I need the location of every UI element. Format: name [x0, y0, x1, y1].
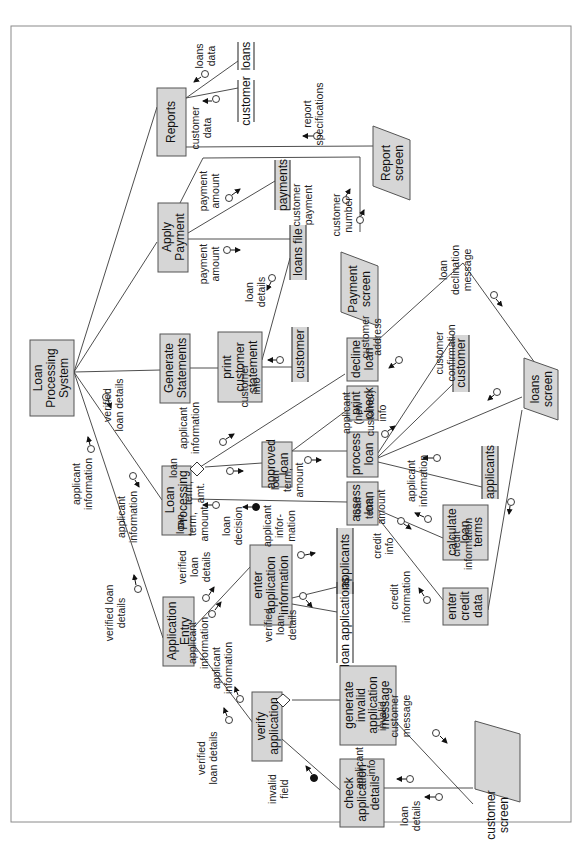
svg-text:loandecision: loandecision — [220, 507, 244, 546]
svg-text:applicantinfor-mation: applicantinfor-mation — [261, 505, 297, 547]
svg-text:applicant(newcustomer)info: applicant(newcustomer)info — [340, 390, 388, 437]
module-apply-payment[interactable]: ApplyPayment — [158, 203, 188, 272]
svg-text:loandetails: loandetails — [398, 801, 422, 831]
store-payments[interactable]: payments — [275, 159, 290, 211]
svg-text:applicantinformation: applicantinformation — [115, 491, 139, 543]
svg-text:applicants: applicants — [483, 445, 497, 499]
svg-text:customerscreen: customerscreen — [484, 790, 511, 839]
screen-report[interactable]: Reportscreen — [373, 126, 410, 200]
structure-chart: LoanProcessingSystem Reports ApplyPaymen… — [0, 0, 576, 858]
module-process-loan[interactable]: processloan — [347, 432, 378, 477]
store-customer-top[interactable]: customer — [238, 76, 254, 125]
svg-text:Paymentscreen: Paymentscreen — [346, 265, 373, 313]
svg-text:customer: customer — [239, 76, 253, 125]
svg-text:verifiedloandetails: verifiedloandetails — [176, 550, 212, 584]
svg-text:loan: loan — [167, 458, 179, 478]
svg-text:entercreditdata: entercreditdata — [445, 591, 485, 621]
svg-text:creditinfo: creditinfo — [371, 533, 395, 559]
svg-text:term,amt.: term,amt. — [182, 481, 206, 505]
screen-loans[interactable]: loansscreen — [524, 358, 558, 420]
store-customer-mid[interactable]: customer — [292, 327, 308, 382]
svg-text:invalidfield: invalidfield — [266, 774, 290, 804]
store-loans[interactable]: loans — [238, 42, 254, 71]
svg-text:payments: payments — [276, 159, 290, 211]
module-root[interactable]: LoanProcessingSystem — [30, 340, 74, 416]
svg-text:loans: loans — [239, 42, 253, 71]
svg-text:Reportscreen: Reportscreen — [379, 144, 406, 181]
svg-text:paymentamount: paymentamount — [197, 171, 221, 211]
store-loan-applications[interactable]: loan applications — [337, 577, 353, 666]
svg-text:verifiedloan details: verifiedloan details — [195, 731, 219, 784]
svg-text:applicantinformation: applicantinformation — [186, 617, 210, 669]
svg-text:customernumber: customernumber — [330, 193, 354, 237]
selection-diamond-loan-processing — [190, 462, 204, 476]
svg-text:GenerateStatements: GenerateStatements — [162, 338, 189, 399]
svg-text:applicantinformation: applicantinformation — [405, 455, 429, 507]
module-reports[interactable]: Reports — [157, 88, 186, 156]
svg-text:paymentamount: paymentamount — [197, 244, 221, 284]
svg-text:applicantinformation: applicantinformation — [70, 458, 94, 510]
svg-text:loandetails: loandetails — [243, 277, 267, 307]
module-verify-application[interactable]: verifyapplication — [252, 692, 282, 761]
couples — [88, 71, 515, 801]
svg-text:loansdata: loansdata — [193, 43, 217, 68]
svg-text:customeraddress: customeraddress — [359, 315, 383, 359]
svg-text:creditinformation: creditinformation — [388, 571, 412, 623]
module-enter-credit-data[interactable]: entercreditdata — [443, 588, 488, 625]
store-loans-file[interactable]: loans file — [290, 225, 306, 280]
svg-text:customer: customer — [293, 329, 307, 378]
page-frame — [11, 26, 571, 822]
svg-text:loans file: loans file — [291, 228, 305, 276]
svg-text:loansscreen: loansscreen — [528, 371, 555, 407]
connections — [74, 61, 535, 804]
svg-text:customerdata: customerdata — [189, 106, 213, 150]
svg-text:loandeclinationmessage: loandeclinationmessage — [437, 245, 473, 295]
svg-text:Reports: Reports — [164, 101, 178, 143]
svg-text:verified loandetails: verified loandetails — [103, 585, 127, 642]
svg-text:customerpayment: customerpayment — [290, 183, 314, 227]
module-generate-statements[interactable]: GenerateStatements — [160, 334, 190, 403]
svg-text:applicantinformation: applicantinformation — [177, 402, 201, 454]
svg-text:loan applications: loan applications — [338, 577, 352, 666]
store-applicants-right[interactable]: applicants — [482, 445, 498, 499]
svg-text:verifiedloan details: verifiedloan details — [101, 378, 125, 431]
screen-payment[interactable]: Paymentscreen — [341, 252, 378, 326]
svg-text:customerconfirmation: customerconfirmation — [433, 324, 457, 381]
svg-text:applicantinformation: applicantinformation — [210, 642, 234, 694]
